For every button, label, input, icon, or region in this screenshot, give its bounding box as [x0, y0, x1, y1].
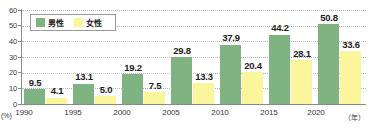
bar-label-female-1995: 5.0 — [89, 84, 123, 95]
bar-label-female-1990: 4.1 — [40, 85, 74, 96]
y-tick-label-40: 40 — [1, 37, 17, 46]
bar-label-male-2000: 19.2 — [116, 62, 150, 73]
bar-female-2010[interactable] — [242, 72, 263, 104]
bar-female-2000[interactable] — [144, 92, 165, 104]
bar-label-female-2005: 13.3 — [187, 71, 221, 82]
bar-label-female-2000: 7.5 — [138, 80, 172, 91]
x-tick-label-2000: 2000 — [98, 108, 146, 117]
bar-female-2015[interactable] — [291, 60, 312, 104]
bar-group-2010: 37.9 20.4 — [218, 10, 267, 104]
y-axis-unit-label: (%) — [1, 112, 12, 119]
legend-item-male: 男性 — [36, 17, 64, 28]
bar-label-male-2020: 50.8 — [312, 12, 346, 23]
bar-female-2020[interactable] — [340, 51, 361, 104]
x-tick-label-2010: 2010 — [196, 108, 244, 117]
y-tick-label-50: 50 — [1, 21, 17, 30]
bar-group-2000: 19.2 7.5 — [120, 10, 169, 104]
bar-label-female-2010: 20.4 — [236, 60, 270, 71]
y-tick-label-30: 30 — [1, 53, 17, 62]
legend-swatch-male-icon — [36, 18, 45, 27]
x-tick-label-2005: 2005 — [147, 108, 195, 117]
bar-label-female-2015: 28.1 — [285, 48, 319, 59]
bar-male-2015[interactable] — [269, 35, 290, 104]
bar-label-male-2015: 44.2 — [263, 22, 297, 33]
x-axis-line — [21, 104, 366, 105]
x-tick-label-2020: 2020 — [292, 108, 340, 117]
bar-label-male-1995: 13.1 — [67, 71, 101, 82]
bar-female-2005[interactable] — [193, 83, 214, 104]
bar-group-2015: 44.2 28.1 — [267, 10, 316, 104]
bar-male-2020[interactable] — [318, 24, 339, 104]
bar-female-1995[interactable] — [95, 96, 116, 104]
x-tick-label-2015: 2015 — [245, 108, 293, 117]
legend-label-male: 男性 — [48, 17, 64, 28]
y-tick-label-60: 60 — [1, 6, 17, 15]
bar-male-2010[interactable] — [220, 45, 241, 104]
x-axis-unit-label: （年） — [344, 112, 365, 122]
legend: 男性 女性 — [30, 14, 116, 31]
bar-female-1990[interactable] — [46, 98, 67, 104]
y-tick-label-10: 10 — [1, 84, 17, 93]
legend-item-female: 女性 — [74, 17, 102, 28]
bar-label-male-2005: 29.8 — [165, 45, 199, 56]
bar-group-2020: 50.8 33.6 — [316, 10, 365, 104]
bar-group-2005: 29.8 13.3 — [169, 10, 218, 104]
bar-label-female-2020: 33.6 — [334, 39, 368, 50]
bar-chart: 60 50 40 30 20 10 0 9.5 4.1 13. — [0, 0, 371, 128]
x-tick-label-1995: 1995 — [49, 108, 97, 117]
legend-swatch-female-icon — [74, 18, 83, 27]
bar-label-male-2010: 37.9 — [214, 32, 248, 43]
legend-label-female: 女性 — [86, 17, 102, 28]
y-tick-label-20: 20 — [1, 68, 17, 77]
